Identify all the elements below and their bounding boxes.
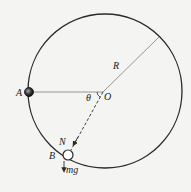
normal-force-arrow (74, 137, 78, 144)
label-theta: θ (86, 92, 91, 103)
ball-b (63, 150, 73, 160)
diagram-canvas: A B O R θ N mg (0, 0, 191, 192)
ball-a (25, 88, 34, 97)
label-gravity: mg (66, 164, 78, 175)
label-r: R (112, 60, 119, 71)
angle-arc (97, 92, 100, 97)
label-o: O (104, 91, 111, 102)
radius-line (103, 37, 159, 92)
label-b: B (49, 150, 55, 161)
label-a: A (15, 87, 23, 98)
label-normal-force: N (58, 136, 67, 147)
